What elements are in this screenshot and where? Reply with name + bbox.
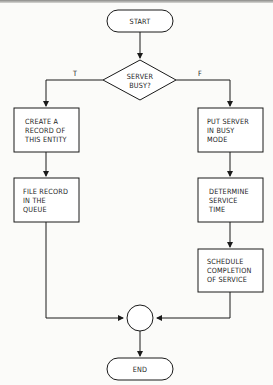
put-server-busy-label: PUT SERVER IN BUSY MODE [207, 117, 249, 144]
start-label: START [107, 17, 173, 26]
schedule-completion-label: SCHEDULE COMPLETION OF SERVICE [207, 257, 252, 284]
true-branch-label: T [73, 69, 77, 78]
connector-circle [127, 305, 153, 331]
end-label: END [107, 365, 173, 374]
determine-time-label: DETERMINE SERVICE TIME [209, 187, 249, 214]
create-record-label: CREATE A RECORD OF THIS ENTITY [25, 117, 67, 144]
false-branch-label: F [198, 69, 202, 78]
file-record-label: FILE RECORD IN THE QUEUE [23, 187, 68, 214]
decision-label: SERVER BUSY? [110, 72, 170, 90]
